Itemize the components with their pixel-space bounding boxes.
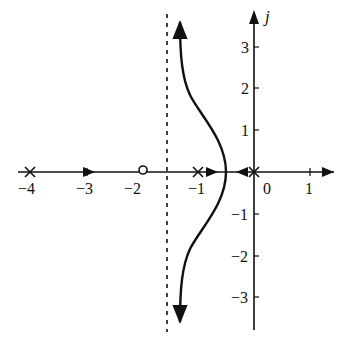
tick-label-neg3j: −3 — [231, 289, 248, 306]
tick-label-neg2: −2 — [124, 180, 141, 197]
locus-branch-upper — [180, 22, 226, 172]
tick-label-1j: 1 — [241, 122, 249, 139]
tick-label-neg1: −1 — [188, 180, 205, 197]
root-locus-diagram: j −4 −3 −2 −1 0 1 3 2 1 −1 −2 −3 — [0, 0, 344, 347]
real-axis — [18, 167, 334, 177]
tick-label-neg2j: −2 — [231, 248, 248, 265]
imaginary-axis: j — [249, 7, 270, 330]
tick-label-neg4: −4 — [18, 180, 35, 197]
tick-label-2j: 2 — [241, 80, 249, 97]
locus-arrow-icon — [236, 167, 248, 177]
tick-label-0: 0 — [263, 180, 271, 197]
imag-axis-arrow-icon — [249, 10, 259, 24]
tick-label-3j: 3 — [241, 39, 249, 56]
locus-arrow-icon — [83, 167, 95, 177]
locus-arrow-icon — [206, 167, 218, 177]
imag-axis-label: j — [263, 7, 270, 26]
tick-label-neg1j: −1 — [231, 206, 248, 223]
real-axis-arrow-icon — [322, 167, 334, 177]
zero-marker-icon — [139, 166, 147, 174]
tick-label-1: 1 — [305, 180, 313, 197]
tick-label-neg3: −3 — [76, 180, 93, 197]
